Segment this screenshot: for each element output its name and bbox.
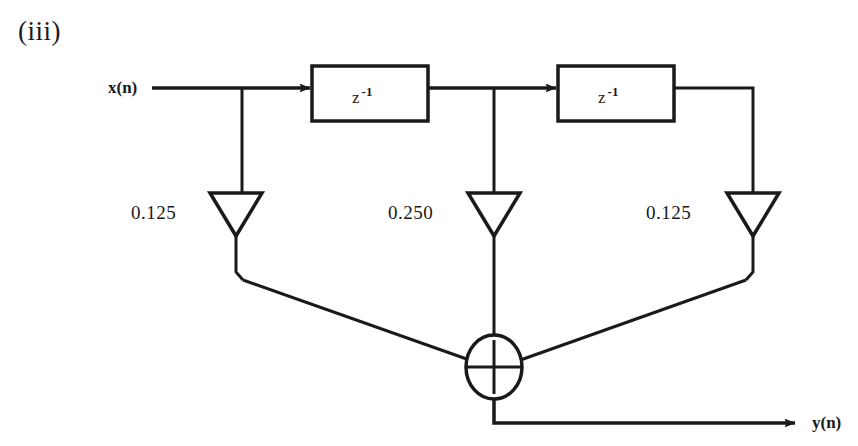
gain-triangle-3 bbox=[727, 193, 779, 236]
input-branch bbox=[152, 88, 310, 193]
adder-node bbox=[466, 335, 522, 399]
wire-mult1-drop bbox=[236, 236, 243, 280]
multiplier-2 bbox=[468, 193, 520, 345]
delay-2-exponent: -1 bbox=[608, 84, 619, 99]
delay-1-base: z bbox=[352, 88, 360, 107]
wire-tap3-down bbox=[674, 88, 753, 193]
multiplier-1 bbox=[210, 193, 478, 363]
part-label: (iii) bbox=[18, 18, 61, 45]
coefficient-label-2: 0.250 bbox=[388, 203, 433, 222]
delay2-output-branch bbox=[674, 88, 753, 193]
delay-block-2-label: z-1 bbox=[598, 84, 618, 108]
signal-flow-diagram bbox=[0, 0, 858, 446]
wire-mult3-to-adder bbox=[512, 280, 746, 363]
delay1-output-branch bbox=[428, 88, 556, 193]
delay-1-exponent: -1 bbox=[362, 84, 373, 99]
wire-adder-to-output bbox=[494, 399, 795, 423]
output-branch bbox=[494, 399, 795, 423]
coefficient-label-3: 0.125 bbox=[646, 203, 691, 222]
input-signal-label: x(n) bbox=[108, 79, 137, 96]
output-signal-label: y(n) bbox=[812, 414, 841, 431]
delay-2-base: z bbox=[598, 88, 606, 107]
figure-canvas: (iii) x(n) y(n) z-1 z-1 0.125 0.250 0.12… bbox=[0, 0, 858, 446]
delay-block-1-label: z-1 bbox=[352, 84, 372, 108]
coefficient-label-1: 0.125 bbox=[131, 203, 176, 222]
gain-triangle-2 bbox=[468, 193, 520, 236]
gain-triangle-1 bbox=[210, 193, 262, 236]
wire-mult1-to-adder bbox=[243, 280, 478, 363]
wire-mult3-drop bbox=[746, 236, 753, 280]
